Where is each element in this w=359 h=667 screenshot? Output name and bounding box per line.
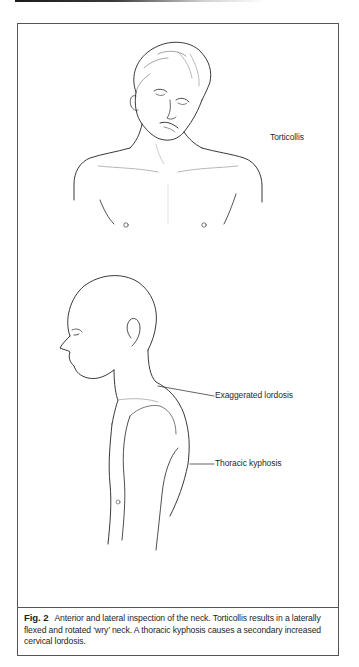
label-exaggerated-lordosis: Exaggerated lordosis xyxy=(215,390,293,400)
anterior-figure xyxy=(74,42,262,227)
lateral-figure xyxy=(60,276,189,550)
figure-number: Fig. 2 xyxy=(24,612,48,623)
page-top-rule xyxy=(15,0,265,2)
caption-divider xyxy=(18,607,338,608)
label-thoracic-kyphosis: Thoracic kyphosis xyxy=(215,458,281,468)
figure-caption: Fig. 2Anterior and lateral inspection of… xyxy=(24,612,336,648)
figure-illustration xyxy=(18,24,340,607)
leader-exaggerated-lordosis xyxy=(158,386,214,396)
caption-text: Anterior and lateral inspection of the n… xyxy=(24,613,321,646)
figure-box: Torticollis Exaggerated lordosis Thoraci… xyxy=(17,23,339,656)
label-torticollis: Torticollis xyxy=(270,132,304,142)
